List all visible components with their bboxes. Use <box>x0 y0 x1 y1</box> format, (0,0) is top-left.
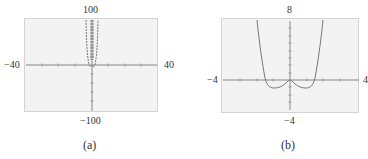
x-min-label-b: −4 <box>207 75 218 85</box>
caption-a: (a) <box>83 139 96 151</box>
y-min-label-a: −100 <box>80 116 101 126</box>
y-min-label-b: −4 <box>284 116 295 126</box>
panel-b: 8 −4 −4 4 (b) <box>183 0 366 159</box>
x-min-label-a: −40 <box>4 60 20 70</box>
plot-area-a <box>0 0 183 159</box>
x-max-label-b: 4 <box>363 75 368 85</box>
y-max-label-b: 8 <box>287 5 292 15</box>
caption-b: (b) <box>281 139 295 151</box>
panel-a: 100 −100 −40 40 (a) <box>0 0 183 159</box>
x-max-label-a: 40 <box>164 60 174 70</box>
y-max-label-a: 100 <box>83 5 98 15</box>
